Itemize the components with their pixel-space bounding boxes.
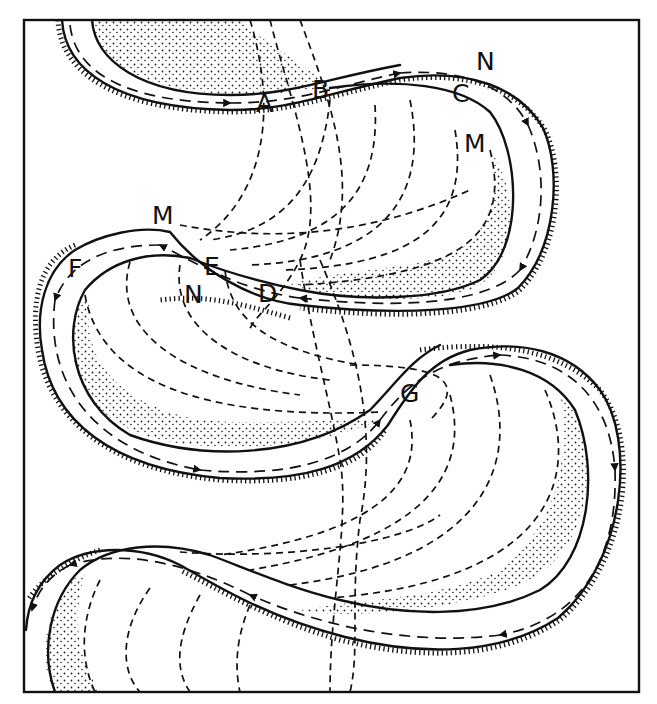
- label-A: A: [256, 89, 273, 118]
- point-labels: A B C N M M F E N D G: [68, 47, 495, 408]
- label-M-top: M: [464, 129, 486, 158]
- label-N-top: N: [476, 47, 495, 76]
- diagram-frame: [24, 20, 639, 692]
- label-N-mid: N: [184, 280, 203, 309]
- label-M-mid: M: [152, 201, 174, 230]
- label-D: D: [258, 279, 277, 308]
- label-B: B: [312, 75, 329, 104]
- meander-diagram: A B C N M M F E N D G: [0, 0, 657, 704]
- label-E: E: [204, 252, 220, 281]
- point-bar-top: [92, 20, 330, 95]
- label-F: F: [68, 254, 82, 283]
- river-banks: [26, 20, 620, 692]
- label-G: G: [400, 379, 419, 408]
- point-bar-bottom-left: [45, 575, 100, 692]
- label-C: C: [452, 79, 469, 108]
